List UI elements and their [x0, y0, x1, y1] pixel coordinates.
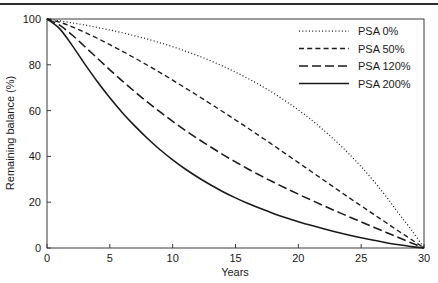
- header-rule: [0, 3, 438, 5]
- y-tick-label: 80: [29, 59, 41, 71]
- y-tick-label: 20: [29, 196, 41, 208]
- x-tick-label: 15: [229, 252, 241, 264]
- x-tick-label: 20: [292, 252, 304, 264]
- chart-figure: 051015202530020406080100 PSA 0%PSA 50%PS…: [0, 0, 438, 283]
- chart-legend: PSA 0%PSA 50%PSA 120%PSA 200%: [299, 25, 411, 90]
- y-tick-label: 60: [29, 105, 41, 117]
- x-tick-label: 0: [44, 252, 50, 264]
- legend-item-label: PSA 200%: [358, 78, 411, 90]
- y-tick-label: 100: [23, 13, 41, 25]
- legend-item-label: PSA 50%: [358, 43, 405, 55]
- x-axis-title: Years: [221, 266, 249, 278]
- line-chart: 051015202530020406080100 PSA 0%PSA 50%PS…: [0, 0, 438, 283]
- x-tick-label: 10: [167, 252, 179, 264]
- x-tick-label: 5: [107, 252, 113, 264]
- legend-item-label: PSA 120%: [358, 60, 411, 72]
- x-tick-label: 30: [418, 252, 430, 264]
- y-tick-label: 0: [35, 242, 41, 254]
- y-axis-title: Remaining balance (%): [4, 76, 16, 190]
- y-tick-label: 40: [29, 150, 41, 162]
- legend-item-label: PSA 0%: [358, 25, 399, 37]
- x-tick-label: 25: [355, 252, 367, 264]
